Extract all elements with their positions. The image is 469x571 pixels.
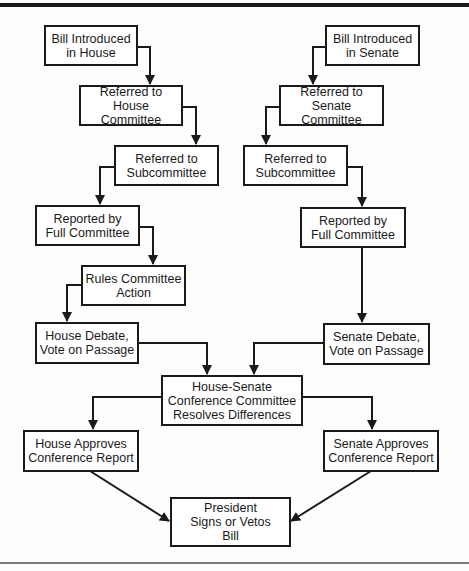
node-senate-intro: Bill Introduced in Senate [325,25,420,66]
node-president: President Signs or Vetos Bill [170,497,291,547]
node-conference: House-Senate Conference Committee Resolv… [161,375,303,426]
arrow-house-approves-to-president [90,471,169,521]
arrow-rules-to-house-debate [67,285,81,321]
node-house-full-committee: Reported by Full Committee [35,205,140,246]
arrow-senate-debate-to-conference [254,343,323,374]
arrow-house-intro-to-committee [137,47,150,84]
node-house-subcommittee: Referred to Subcommittee [114,145,219,186]
arrow-senate-intro-to-committee [313,47,325,84]
node-house-intro: Bill Introduced in House [44,25,138,66]
node-senate-subcommittee: Referred to Subcommittee [243,145,348,186]
node-senate-committee: Referred to Senate Committee [279,85,384,126]
arrow-conference-to-house-approves [93,397,161,429]
arrow-house-subcommittee-to-full [100,167,114,204]
node-house-debate: House Debate, Vote on Passage [35,322,139,364]
node-senate-full-committee: Reported by Full Committee [300,207,406,248]
node-senate-approves: Senate Approves Conference Report [323,430,439,472]
arrow-house-committee-to-subcommittee [182,107,196,144]
bottom-rule [0,562,469,564]
arrow-senate-approves-to-president [291,471,371,521]
arrow-house-full-to-rules [139,227,153,264]
node-senate-debate: Senate Debate, Vote on Passage [323,323,430,365]
connector-arrows [0,0,469,571]
arrow-conference-to-senate-approves [302,397,372,429]
node-rules-committee: Rules Committee Action [81,265,186,306]
node-house-approves: House Approves Conference Report [23,430,139,472]
node-house-committee: Referred to House Committee [79,85,183,126]
arrow-house-debate-to-conference [138,343,207,374]
arrow-senate-subcommittee-to-full [347,167,362,206]
arrow-senate-committee-to-subcommittee [266,107,279,144]
